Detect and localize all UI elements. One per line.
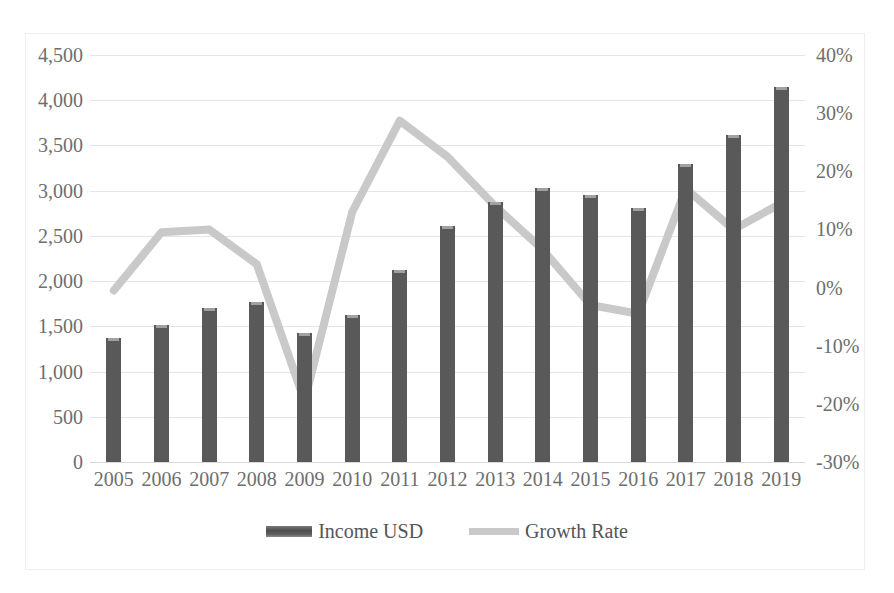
bar-2007 [202,308,217,462]
x-tick-2009: 2009 [285,468,325,491]
chart-legend: Income USDGrowth Rate [0,520,894,543]
y-tick-left: 500 [53,407,83,427]
y-tick-left: 3,000 [38,181,83,201]
y-axis-right: -30%-20%-10%0%10%20%30%40% [816,55,886,462]
x-tick-2005: 2005 [94,468,134,491]
y-tick-right: -20% [816,394,859,414]
bar-2008 [249,302,264,462]
y-tick-right: 20% [816,161,853,181]
y-tick-right: 40% [816,45,853,65]
y-tick-right: -30% [816,452,859,472]
bar-2014 [535,188,550,462]
y-tick-right: 30% [816,103,853,123]
legend-item-income-usd[interactable]: Income USD [266,520,423,543]
bar-2018 [726,135,741,462]
chart-figure: 05001,0001,5002,0002,5003,0003,5004,0004… [0,0,894,593]
x-tick-2016: 2016 [618,468,658,491]
x-tick-2013: 2013 [475,468,515,491]
bar-2015 [583,195,598,462]
gridline [90,462,805,463]
plot-area [90,55,805,462]
x-tick-2014: 2014 [523,468,563,491]
x-tick-2006: 2006 [142,468,182,491]
bar-2016 [631,208,646,462]
y-tick-left: 2,000 [38,271,83,291]
y-tick-left: 1,000 [38,362,83,382]
y-tick-left: 0 [73,452,83,472]
bar-2011 [392,270,407,462]
x-tick-2010: 2010 [332,468,372,491]
bar-2013 [488,202,503,462]
bar-2012 [440,226,455,462]
legend-label: Income USD [318,520,423,543]
x-axis: 2005200620072008200920102011201220132014… [90,468,805,502]
bar-2019 [774,87,789,462]
x-tick-2017: 2017 [666,468,706,491]
y-tick-left: 1,500 [38,316,83,336]
legend-bar-swatch-icon [266,526,312,537]
x-tick-2015: 2015 [571,468,611,491]
bar-2006 [154,325,169,462]
x-tick-2008: 2008 [237,468,277,491]
y-tick-left: 4,000 [38,90,83,110]
y-tick-left: 4,500 [38,45,83,65]
y-tick-right: 10% [816,219,853,239]
x-tick-2007: 2007 [189,468,229,491]
x-tick-2012: 2012 [428,468,468,491]
legend-item-growth-rate[interactable]: Growth Rate [469,520,628,543]
bar-2017 [678,164,693,462]
legend-line-swatch-icon [469,528,519,535]
y-tick-right: -10% [816,336,859,356]
legend-label: Growth Rate [525,520,628,543]
x-tick-2019: 2019 [761,468,801,491]
y-tick-right: 0% [816,278,843,298]
y-tick-left: 2,500 [38,226,83,246]
bar-2010 [345,315,360,462]
y-axis-left: 05001,0001,5002,0002,5003,0003,5004,0004… [25,55,83,462]
x-tick-2011: 2011 [380,468,419,491]
bar-2005 [106,338,121,462]
y-tick-left: 3,500 [38,135,83,155]
x-tick-2018: 2018 [714,468,754,491]
bar-2009 [297,333,312,462]
